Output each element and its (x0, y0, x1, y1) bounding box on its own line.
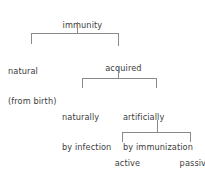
connector-level1-bar (31, 33, 119, 34)
node-passive: passive (169, 148, 205, 170)
node-immunity-label: immunity (63, 20, 103, 30)
connector-drop-naturally (82, 78, 83, 88)
node-artificially-line1: artificially (123, 112, 193, 122)
connector-drop-acquired (118, 33, 119, 46)
connector-drop-natural (31, 33, 32, 44)
connector-drop-artificially (156, 78, 157, 88)
node-natural: natural (from birth) (8, 46, 56, 126)
connector-level3-bar (122, 132, 191, 133)
node-passive-label: passive (180, 158, 205, 168)
connector-drop-active (122, 132, 123, 142)
node-natural-line1: natural (8, 66, 56, 76)
connector-level2-bar (82, 78, 157, 79)
node-acquired-label: acquired (105, 63, 141, 73)
immunity-tree-diagram: immunity natural (from birth) acquired n… (0, 0, 205, 170)
connector-acquired-stem (118, 66, 119, 78)
connector-drop-passive (190, 132, 191, 142)
connector-artificially-stem (157, 120, 158, 132)
node-natural-line2: (from birth) (8, 96, 56, 106)
node-active: active (104, 148, 140, 170)
node-naturally-line1: naturally (62, 112, 111, 122)
node-active-label: active (115, 158, 141, 168)
